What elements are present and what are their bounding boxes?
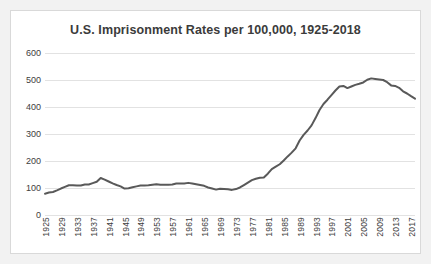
x-axis-tick-labels: 1925192919331937194119451949195319571961… [45, 217, 415, 253]
series-line [45, 53, 415, 215]
chart-figure: U.S. Imprisonment Rates per 100,000, 192… [0, 0, 431, 264]
x-tick-label: 2013 [391, 217, 401, 237]
y-tick-label: 300 [11, 130, 41, 139]
x-tick-label: 2001 [343, 217, 353, 237]
x-tick-label: 1953 [152, 217, 162, 237]
x-tick-label: 1929 [57, 217, 67, 237]
y-tick-label: 400 [11, 103, 41, 112]
plot-area [45, 53, 415, 215]
series-path [45, 78, 415, 193]
chart-title: U.S. Imprisonment Rates per 100,000, 192… [11, 23, 420, 37]
x-tick-label: 1961 [184, 217, 194, 237]
x-tick-label: 1977 [248, 217, 258, 237]
chart-panel: U.S. Imprisonment Rates per 100,000, 192… [10, 10, 421, 254]
x-tick-label: 1985 [280, 217, 290, 237]
x-tick-label: 2017 [407, 217, 417, 237]
y-tick-label: 100 [11, 184, 41, 193]
y-tick-label: 0 [11, 211, 41, 220]
x-tick-label: 1965 [200, 217, 210, 237]
x-tick-label: 1997 [327, 217, 337, 237]
y-tick-label: 500 [11, 76, 41, 85]
x-tick-label: 2005 [359, 217, 369, 237]
x-tick-label: 1957 [168, 217, 178, 237]
x-tick-label: 1925 [41, 217, 51, 237]
y-axis-tick-labels: 6005004003002001000 [11, 53, 41, 215]
y-tick-label: 600 [11, 49, 41, 58]
y-tick-label: 200 [11, 157, 41, 166]
x-tick-label: 1993 [312, 217, 322, 237]
x-tick-label: 1937 [89, 217, 99, 237]
x-tick-label: 1949 [136, 217, 146, 237]
x-tick-label: 1973 [232, 217, 242, 237]
x-tick-label: 2009 [375, 217, 385, 237]
x-tick-label: 1969 [216, 217, 226, 237]
x-tick-label: 1933 [73, 217, 83, 237]
x-tick-label: 1981 [264, 217, 274, 237]
x-tick-label: 1945 [121, 217, 131, 237]
x-tick-label: 1989 [296, 217, 306, 237]
x-tick-label: 1941 [105, 217, 115, 237]
